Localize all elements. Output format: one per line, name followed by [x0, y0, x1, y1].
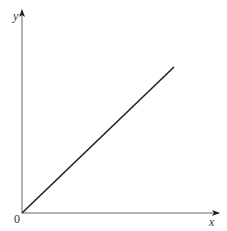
proportional-line	[22, 67, 174, 213]
graph-canvas: y x 0	[0, 0, 227, 231]
origin-label: 0	[14, 212, 20, 226]
y-axis-label: y	[12, 9, 19, 23]
x-axis-label: x	[208, 215, 215, 229]
